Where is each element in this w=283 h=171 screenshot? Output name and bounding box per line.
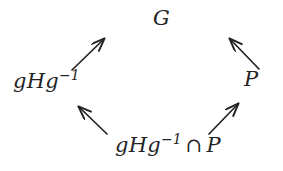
node-gHg-inverse: gHg−1 [13,69,80,92]
node-P-label: P [244,67,258,91]
math-diagram: G gHg−1 P gHg−1∩P [0,0,283,171]
node-intersection-exponent: −1 [161,131,181,147]
node-gHg-inverse-cap-P: gHg−1∩P [115,133,221,156]
edge-intersection-to-P [209,104,238,134]
edge-P-to-G [230,39,259,69]
node-intersection-tail: P [207,133,221,157]
edge-intersection-to-gHginv [79,107,107,134]
node-G-label: G [153,6,170,30]
edge-gHginv-to-G [72,39,104,70]
node-G: G [153,8,170,29]
node-P: P [244,69,258,90]
node-intersection-base: gHg [115,133,161,157]
node-gHg-inverse-exponent: −1 [59,67,79,83]
intersection-operator-icon: ∩ [182,133,207,157]
node-gHg-inverse-base: gHg [13,69,59,93]
